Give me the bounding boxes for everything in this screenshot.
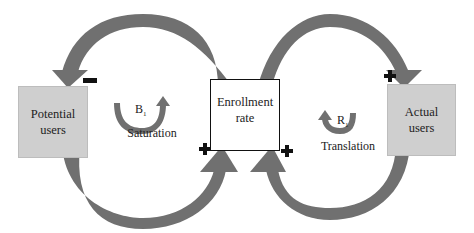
enrollment-rate-label-line1: Enrollment [217, 94, 273, 110]
actual-users-label-line1: Actual [405, 104, 438, 120]
enrollment-rate-node: Enrollment rate [210, 79, 280, 151]
enrollment-rate-label-line2: rate [217, 110, 273, 126]
potential-users-node: Potential users [18, 86, 88, 158]
actual-users-label-line2: users [405, 120, 438, 136]
arrow-enrollment-to-actual [258, 14, 422, 88]
reinforcing-loop-id: R1 [337, 113, 349, 129]
plus-sign-icon [281, 145, 293, 157]
minus-sign-icon [83, 78, 97, 83]
reinforcing-loop-name: Translation [318, 139, 378, 154]
balancing-loop-name: Saturation [122, 126, 182, 141]
arrow-potential-to-enrollment [62, 146, 238, 229]
balancing-loop-id: B1 [135, 102, 147, 118]
arrow-enrollment-to-potential [52, 14, 232, 88]
potential-users-label-line2: users [31, 122, 75, 138]
potential-users-label-line1: Potential [31, 106, 75, 122]
actual-users-node: Actual users [387, 84, 456, 156]
